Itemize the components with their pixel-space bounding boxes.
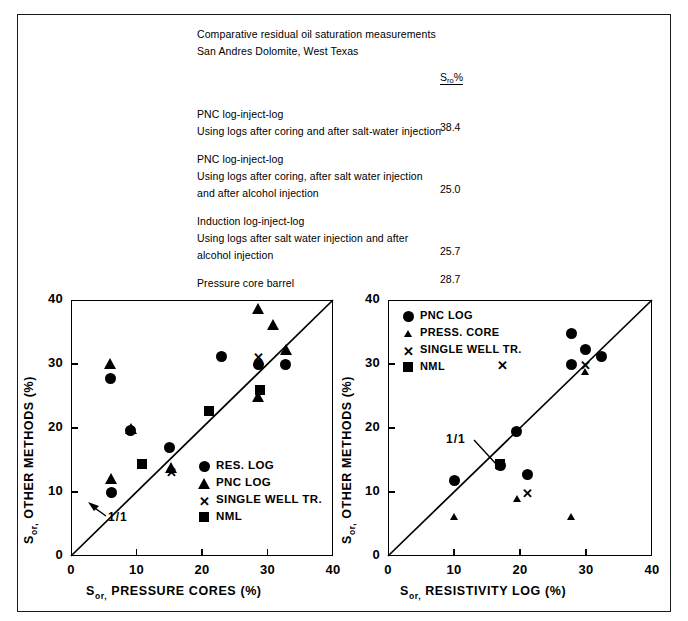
entry-line: PNC log-inject-log (197, 153, 283, 165)
data-point-triangle (450, 513, 458, 520)
x-tick-label: 20 (500, 562, 540, 577)
y-tick (388, 363, 395, 365)
y-tick (388, 427, 395, 429)
legend-label: PNC LOG (420, 309, 473, 321)
entry-line: Using logs after salt water injection an… (197, 232, 408, 244)
measurement-entry: PNC log-inject-log Using logs after cori… (197, 104, 617, 138)
data-point-circle (522, 469, 533, 480)
x-tick (519, 549, 521, 556)
measurement-entry: Pressure core barrel28.7 (197, 273, 617, 290)
data-point-x: ✕ (522, 487, 533, 500)
entry-line: Induction log-inject-log (197, 215, 304, 227)
header-line-1: Comparative residual oil saturation meas… (197, 26, 617, 43)
data-point-square (495, 459, 505, 469)
data-point-triangle (513, 495, 521, 502)
entry-value: 38.4 (440, 121, 460, 133)
legend-label: PRESS. CORE (420, 326, 500, 338)
legend-label: SINGLE WELL TR. (420, 343, 522, 355)
x-tick-label: 30 (566, 562, 606, 577)
data-point-x: ✕ (497, 359, 508, 372)
data-point-triangle (581, 345, 589, 352)
y-axis-title: Sor, OTHER METHODS (%) (340, 376, 357, 544)
y-tick-label: 0 (344, 547, 380, 562)
y-tick-label: 30 (344, 355, 380, 370)
entry-line: Using logs after coring, after salt wate… (197, 170, 423, 182)
data-point-circle (566, 328, 577, 339)
data-point-x: ✕ (580, 359, 591, 372)
data-point-circle (403, 311, 414, 322)
x-tick (453, 549, 455, 556)
data-point-triangle (404, 330, 412, 337)
one-to-one-label: 1/1 (446, 432, 466, 446)
sro-header-label: Sro% (440, 71, 463, 85)
data-point-triangle (567, 513, 575, 520)
data-point-circle (511, 426, 522, 437)
entry-value: 25.7 (440, 245, 460, 257)
legend-label: NML (420, 360, 445, 372)
entry-line: Using logs after coring and after salt-w… (197, 125, 441, 137)
figure-root: Comparative residual oil saturation meas… (0, 0, 688, 621)
y-tick-label: 40 (344, 291, 380, 306)
legend-symbol (400, 308, 416, 323)
data-point-x: ✕ (403, 345, 414, 358)
x-tick (585, 549, 587, 556)
entry-line: and after alcohol injection (197, 187, 319, 199)
entry-line: Pressure core barrel (197, 277, 294, 289)
y-tick (388, 491, 395, 493)
header-text-block: Comparative residual oil saturation meas… (197, 26, 617, 290)
measurement-entry: Induction log-inject-log Using logs afte… (197, 211, 617, 262)
entry-value: 25.0 (440, 183, 460, 195)
legend-symbol (400, 325, 416, 340)
x-tick-label: 10 (434, 562, 474, 577)
x-tick-label: 40 (632, 562, 672, 577)
measurement-entry: PNC log-inject-log Using logs after cori… (197, 149, 617, 200)
entry-line: alcohol injection (197, 249, 273, 261)
entry-value: 28.7 (440, 273, 460, 285)
value-column-header: Sro% (197, 71, 617, 93)
x-axis-title: Sor, RESISTIVITY LOG (%) (400, 584, 566, 601)
data-point-circle (449, 475, 460, 486)
legend-symbol (400, 359, 416, 374)
legend-symbol: ✕ (400, 342, 416, 357)
entry-line: PNC log-inject-log (197, 108, 283, 120)
header-line-2: San Andres Dolomite, West Texas (197, 43, 617, 60)
data-point-square (403, 362, 413, 372)
x-tick-label: 0 (368, 562, 408, 577)
